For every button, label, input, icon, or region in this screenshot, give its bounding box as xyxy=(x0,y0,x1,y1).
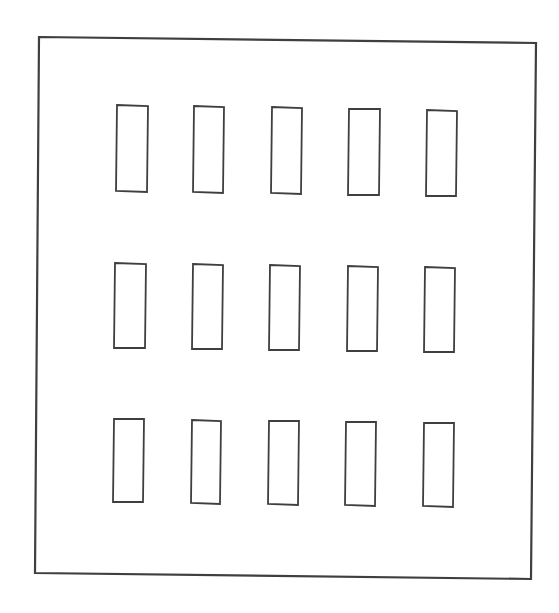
background xyxy=(0,0,559,613)
diagram-canvas xyxy=(0,0,559,613)
